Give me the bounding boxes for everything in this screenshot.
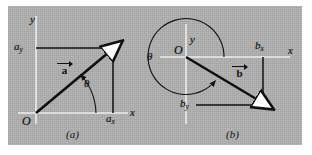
panel-b-caption: (b)	[226, 128, 239, 140]
panel-b-bx-label: bx	[255, 40, 264, 52]
panel-a-caption: (a)	[66, 128, 79, 140]
panel-a-vector-label: a	[57, 63, 72, 76]
panel-b-vector-label: b	[232, 66, 247, 79]
panel-b-bx-subscript: x	[261, 44, 264, 53]
panel-a-graphics	[18, 16, 128, 124]
panel-a-ay-subscript: y	[20, 45, 23, 54]
vector-components-figure: y ay ax x O θ a (a) y O θ bx x by b (b)	[0, 0, 312, 155]
panel-a-origin-label: O	[22, 115, 31, 127]
panel-a-axis-x-label: x	[130, 107, 135, 118]
panel-b-axis-x-label: x	[288, 45, 293, 56]
panel-a-ay-label: ay	[14, 41, 23, 53]
panel-a-vector-overbar-arrow-icon	[57, 63, 72, 64]
panel-a-ax-subscript: x	[112, 117, 115, 126]
panel-b-by-subscript: y	[186, 102, 189, 111]
panel-b-vector-overbar-arrow-icon	[232, 66, 247, 67]
panel-b-angle-label: θ	[147, 51, 152, 62]
panel-b-by-label: by	[180, 98, 189, 110]
panel-b-axis-y-label: y	[190, 34, 195, 45]
panel-b-origin-label: O	[174, 44, 183, 56]
panel-a-ax-label: ax	[106, 113, 115, 125]
figure-vector-graphics	[0, 0, 312, 155]
panel-a-angle-label: θ	[84, 78, 89, 89]
panel-b-graphics	[148, 19, 290, 124]
panel-a-axis-y-label: y	[30, 14, 35, 25]
